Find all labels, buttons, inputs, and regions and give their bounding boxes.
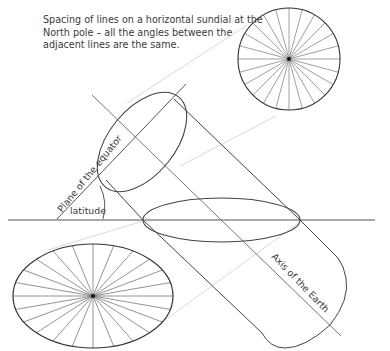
latitude-label: latitude: [70, 205, 106, 216]
equator-plane-label: Plane of the equator: [55, 133, 124, 214]
equator-ellipse: [80, 76, 204, 208]
sundial-center-dot: [287, 57, 291, 61]
cylinder-outline: [106, 99, 347, 348]
sundial-diagram: Plane of the equator latitude Axis of th…: [0, 0, 390, 351]
earth-axis-label: Axis of the Earth: [270, 251, 332, 315]
equator-plane-line: [57, 84, 186, 219]
earth-axis-line: [92, 95, 341, 336]
projected-center-dot: [91, 294, 95, 298]
